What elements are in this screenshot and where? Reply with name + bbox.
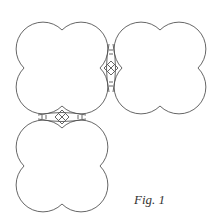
connector-vertical xyxy=(104,44,118,92)
quatrefoil-top-right xyxy=(114,22,206,114)
quatrefoil-top-left xyxy=(14,21,112,117)
figure-caption: Fig. 1 xyxy=(134,192,165,208)
quatrefoil-bottom-left xyxy=(16,120,108,212)
connector-horizontal xyxy=(38,110,86,124)
figure-diagram xyxy=(0,0,220,224)
